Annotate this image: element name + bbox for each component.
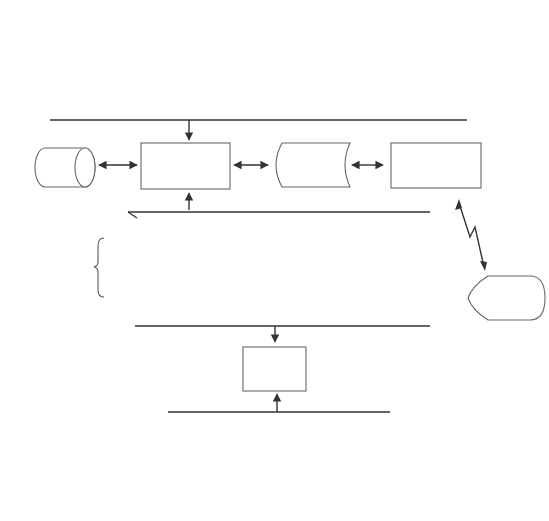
top-bus bbox=[50, 120, 467, 140]
lightning-arrow-down bbox=[480, 261, 487, 271]
online-production-system bbox=[0, 0, 230, 189]
general-ledger-file bbox=[0, 0, 95, 187]
database-brace bbox=[94, 238, 104, 297]
db-top-bus-tail bbox=[128, 212, 137, 218]
inquiry-processing-system bbox=[0, 0, 306, 391]
production-cycle-diagram bbox=[0, 0, 549, 521]
factory-lightning-link bbox=[459, 203, 484, 267]
